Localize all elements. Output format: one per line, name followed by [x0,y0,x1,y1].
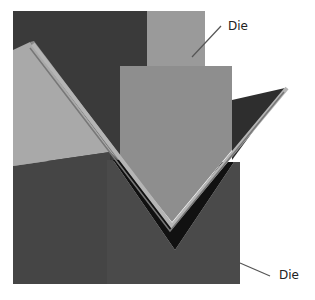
punch-shank [147,11,205,67]
bending-diagram [0,0,315,300]
bending-illustration [0,0,315,300]
leader-line-bottom [240,263,270,276]
die-left-face [13,152,110,284]
label-die-bottom: Die [279,269,299,281]
label-die-top: Die [228,20,248,32]
